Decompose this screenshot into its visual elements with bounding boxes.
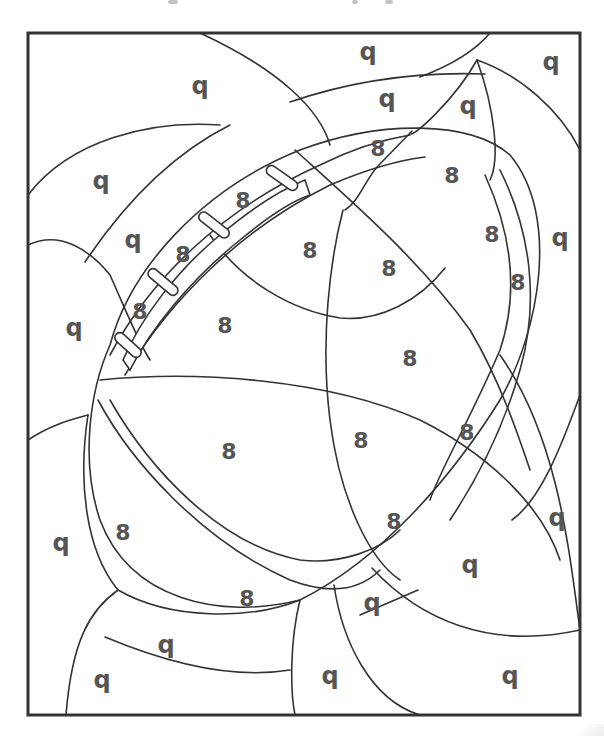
region-number-label: 8 bbox=[510, 272, 525, 294]
region-number-label: 8 bbox=[302, 240, 317, 262]
region-number-label: q bbox=[542, 50, 559, 74]
region-outlines bbox=[28, 33, 580, 715]
region-number-label: q bbox=[52, 531, 69, 555]
region-number-label: 8 bbox=[444, 165, 459, 187]
page-curl-shadow bbox=[564, 724, 604, 736]
region-number-label: 8 bbox=[217, 315, 232, 337]
region-number-label: q bbox=[378, 87, 395, 111]
region-number-label: q bbox=[459, 94, 476, 118]
region-number-label: 8 bbox=[239, 588, 254, 610]
region-number-label: q bbox=[551, 226, 568, 250]
region-number-label: 8 bbox=[386, 511, 401, 533]
region-number-label: q bbox=[65, 316, 82, 340]
region-number-label: 8 bbox=[132, 301, 147, 323]
region-number-label: 8 bbox=[353, 430, 368, 452]
region-number-label: q bbox=[461, 553, 478, 577]
region-number-label: q bbox=[191, 74, 208, 98]
region-number-label: q bbox=[548, 506, 565, 530]
region-number-label: 8 bbox=[235, 190, 250, 212]
region-number-label: q bbox=[157, 633, 174, 657]
region-number-label: 8 bbox=[370, 138, 385, 160]
region-number-label: 8 bbox=[402, 348, 417, 370]
coloring-page: qqqqq88q8q8q888888q88888q8qq8qqqqq bbox=[0, 0, 604, 736]
region-number-label: 8 bbox=[115, 522, 130, 544]
region-number-label: q bbox=[359, 40, 376, 64]
region-number-label: q bbox=[124, 228, 141, 252]
page-frame bbox=[28, 33, 580, 715]
region-number-label: q bbox=[321, 664, 338, 688]
region-number-label: 8 bbox=[484, 224, 499, 246]
region-number-label: 8 bbox=[221, 441, 236, 463]
region-number-label: 8 bbox=[459, 422, 474, 444]
region-number-label: 8 bbox=[175, 244, 190, 266]
region-number-label: q bbox=[93, 668, 110, 692]
region-number-label: q bbox=[501, 664, 518, 688]
region-number-label: q bbox=[92, 169, 109, 193]
region-number-label: q bbox=[363, 591, 380, 615]
coloring-lineart bbox=[0, 0, 604, 736]
region-number-label: 8 bbox=[381, 258, 396, 280]
